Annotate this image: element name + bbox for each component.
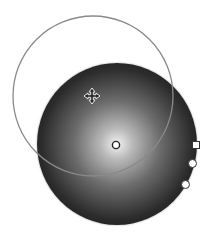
aspect-handle[interactable] [181,180,190,189]
angle-handle[interactable] [188,159,197,168]
gradient-annotator-overlay [0,0,212,238]
gradient-canvas[interactable] [0,0,212,238]
radius-handle-square[interactable] [192,141,200,149]
center-handle[interactable] [112,141,119,148]
move-cursor-icon [84,88,100,104]
